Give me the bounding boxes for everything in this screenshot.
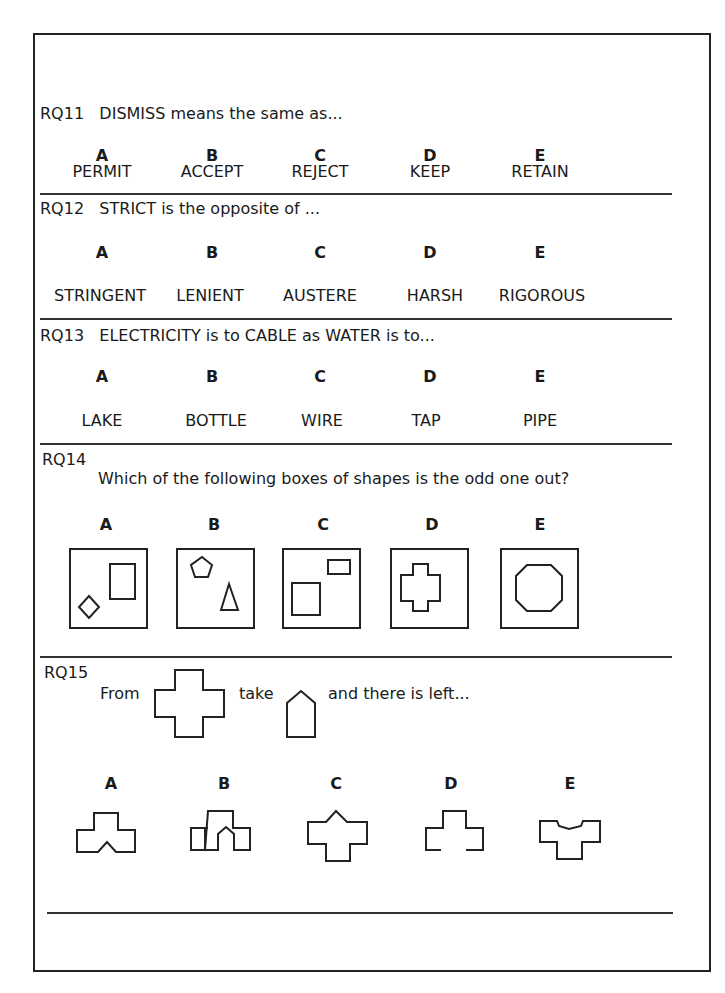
option-shape-d[interactable] xyxy=(426,811,483,850)
take-house-shape xyxy=(287,691,315,737)
divider xyxy=(47,912,673,914)
option-shape-a[interactable] xyxy=(77,813,135,852)
option-shape-b[interactable] xyxy=(191,811,250,850)
option-shape-e[interactable] xyxy=(540,821,600,859)
option-shape-c[interactable] xyxy=(308,811,367,861)
from-cross-shape xyxy=(155,670,224,737)
rq15-shapes xyxy=(0,0,725,993)
